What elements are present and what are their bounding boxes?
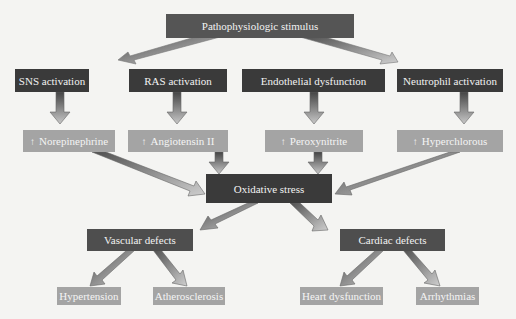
node-angiotensin-ii: ↑ Angiotensin II — [128, 130, 228, 152]
arrow-vascular-to-atherosclerosis — [153, 250, 187, 286]
node-pathophysiologic-stimulus: Pathophysiologic stimulus — [166, 14, 354, 38]
increase-arrow-icon: ↑ — [30, 136, 35, 147]
arrow-cardiac-to-heart-dysfunction — [340, 250, 384, 286]
node-neutrophil-activation: Neutrophil activation — [397, 69, 503, 92]
increase-arrow-icon: ↑ — [281, 136, 286, 147]
arrow-oxidative-to-vascular — [200, 203, 258, 230]
node-label: Neutrophil activation — [403, 75, 497, 87]
node-vascular-defects: Vascular defects — [87, 229, 193, 251]
node-label: RAS activation — [144, 75, 212, 87]
node-label: Cardiac defects — [358, 234, 426, 246]
arrow-angiotensin-to-oxidative — [209, 152, 229, 174]
node-ras-activation: RAS activation — [129, 69, 227, 92]
node-label: Atherosclerosis — [155, 290, 223, 302]
node-label: Hyperchlorous — [422, 135, 487, 147]
arrow-peroxynitrite-to-oxidative — [308, 152, 328, 174]
arrow-endothelial-to-peroxynitrite — [304, 92, 324, 124]
node-atherosclerosis: Atherosclerosis — [153, 287, 225, 305]
node-label: Angiotensin II — [151, 135, 215, 147]
node-endothelial-dysfunction: Endothelial dysfunction — [242, 69, 385, 92]
arrow-vascular-to-hypertension — [90, 250, 135, 286]
arrow-hyperchlorous-to-oxidative — [335, 152, 460, 195]
arrow-neutrophil-to-hyperchlorous — [454, 92, 474, 124]
increase-arrow-icon: ↑ — [413, 136, 418, 147]
node-arrhythmias: Arrhythmias — [416, 287, 479, 305]
node-label: Heart dysfunction — [302, 290, 381, 302]
node-label: Hypertension — [59, 290, 118, 302]
node-label: Endothelial dysfunction — [261, 75, 366, 87]
arrow-root-to-right — [300, 37, 398, 64]
node-oxidative-stress: Oxidative stress — [206, 174, 332, 203]
node-hypertension: Hypertension — [57, 287, 121, 305]
arrow-sns-to-norepinephrine — [50, 92, 70, 124]
diagram-canvas: Pathophysiologic stimulus SNS activation… — [0, 0, 516, 319]
node-label: Vascular defects — [104, 234, 176, 246]
arrow-ras-to-angiotensin — [167, 92, 187, 124]
node-sns-activation: SNS activation — [15, 69, 89, 92]
arrows-layer — [0, 0, 516, 319]
arrow-cardiac-to-arrhythmias — [403, 250, 440, 286]
node-heart-dysfunction: Heart dysfunction — [300, 287, 383, 305]
arrow-norepinephrine-to-oxidative — [92, 152, 205, 196]
increase-arrow-icon: ↑ — [142, 136, 147, 147]
node-label: Arrhythmias — [420, 290, 476, 302]
node-label: Oxidative stress — [234, 183, 305, 195]
arrow-root-to-left — [118, 37, 220, 64]
node-hyperchlorous: ↑ Hyperchlorous — [397, 130, 503, 152]
node-norepinephrine: ↑ Norepinephrine — [23, 130, 115, 152]
node-label: Norepinephrine — [39, 135, 108, 147]
node-label: Peroxynitrite — [290, 135, 347, 147]
arrow-oxidative-to-cardiac — [290, 203, 328, 231]
node-cardiac-defects: Cardiac defects — [340, 229, 445, 251]
node-peroxynitrite: ↑ Peroxynitrite — [265, 130, 363, 152]
node-label: SNS activation — [19, 75, 85, 87]
node-label: Pathophysiologic stimulus — [202, 20, 318, 32]
